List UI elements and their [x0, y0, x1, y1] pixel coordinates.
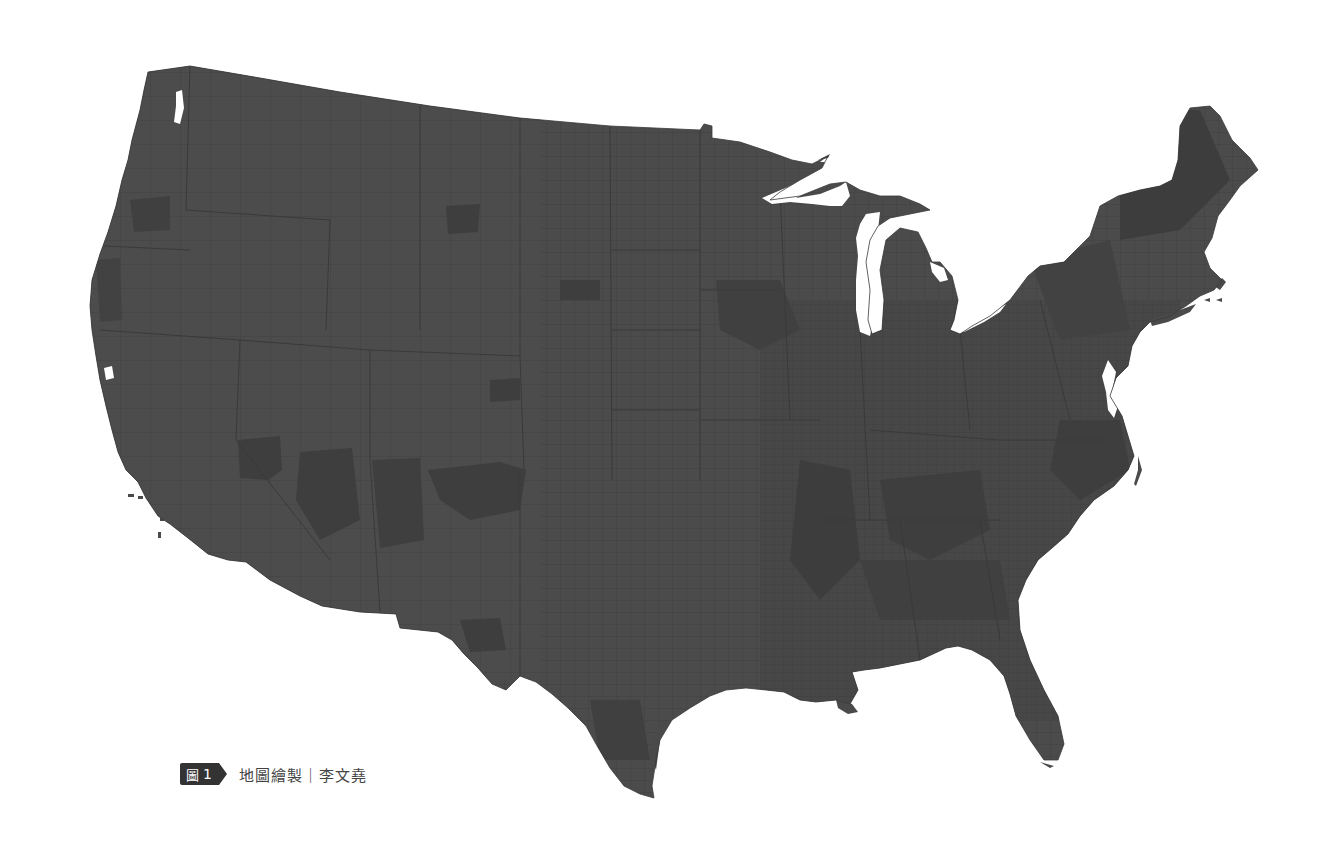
outer-banks [1134, 456, 1142, 486]
figure-number: 1 [203, 766, 213, 782]
figure-caption: 圖 1 地圖繪製｜李文堯 [180, 762, 367, 786]
map-container [0, 0, 1331, 867]
florida-keys [1040, 762, 1054, 768]
figure-label: 圖 [186, 765, 200, 784]
map-credit: 地圖繪製｜李文堯 [239, 764, 367, 785]
us-county-map [0, 0, 1331, 867]
figure-badge: 圖 1 [180, 763, 219, 785]
channel-islands [128, 494, 134, 497]
